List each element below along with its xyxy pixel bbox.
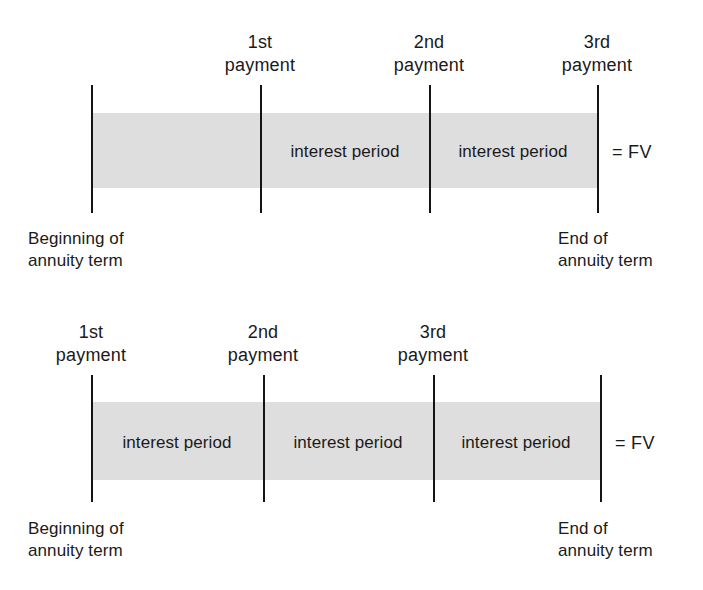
payment-label-2: 2ndpayment	[228, 321, 298, 367]
payment-ordinal: 3rd	[562, 31, 632, 54]
endpoint-label-line-1: Beginning of	[28, 518, 124, 540]
interest-period-label-3: interest period	[461, 433, 570, 453]
payment-label-1: 1stpayment	[56, 321, 126, 367]
end-of-term-label: End ofannuity term	[558, 228, 653, 272]
interest-period-label-2: interest period	[293, 433, 402, 453]
payment-label-3: 3rdpayment	[562, 31, 632, 77]
payment-label-1: 1stpayment	[225, 31, 295, 77]
payment-word: payment	[398, 344, 468, 367]
interest-period-label-2: interest period	[458, 142, 567, 162]
annuity-due-timeline-figure: 1stpayment2ndpayment3rdpaymentinterest p…	[0, 290, 703, 590]
payment-ordinal: 2nd	[228, 321, 298, 344]
timeline-start-tick	[91, 85, 93, 213]
payment-word: payment	[394, 54, 464, 77]
payment-label-3: 3rdpayment	[398, 321, 468, 367]
endpoint-label-line-1: End of	[558, 228, 653, 250]
payment-ordinal: 1st	[56, 321, 126, 344]
payment-ordinal: 3rd	[398, 321, 468, 344]
payment-2-tick	[263, 375, 265, 502]
payment-1-tick	[260, 85, 262, 213]
endpoint-label-line-1: Beginning of	[28, 228, 124, 250]
payment-3-tick	[433, 375, 435, 502]
interest-period-label-1: interest period	[122, 433, 231, 453]
payment-word: payment	[562, 54, 632, 77]
future-value-label: = FV	[612, 142, 652, 162]
endpoint-label-line-2: annuity term	[558, 540, 653, 562]
timeline-end-tick	[600, 375, 602, 502]
payment-1-tick	[91, 375, 93, 502]
beginning-of-term-label: Beginning ofannuity term	[28, 518, 124, 562]
payment-label-2: 2ndpayment	[394, 31, 464, 77]
payment-word: payment	[225, 54, 295, 77]
interest-period-label-1: interest period	[290, 142, 399, 162]
payment-3-tick	[597, 85, 599, 213]
payment-word: payment	[56, 344, 126, 367]
ordinary-annuity-timeline-figure: 1stpayment2ndpayment3rdpaymentinterest p…	[0, 0, 703, 295]
payment-ordinal: 2nd	[394, 31, 464, 54]
payment-word: payment	[228, 344, 298, 367]
future-value-label: = FV	[615, 433, 655, 453]
endpoint-label-line-2: annuity term	[28, 540, 124, 562]
endpoint-label-line-2: annuity term	[28, 250, 124, 272]
beginning-of-term-label: Beginning ofannuity term	[28, 228, 124, 272]
endpoint-label-line-2: annuity term	[558, 250, 653, 272]
end-of-term-label: End ofannuity term	[558, 518, 653, 562]
endpoint-label-line-1: End of	[558, 518, 653, 540]
payment-2-tick	[429, 85, 431, 213]
payment-ordinal: 1st	[225, 31, 295, 54]
